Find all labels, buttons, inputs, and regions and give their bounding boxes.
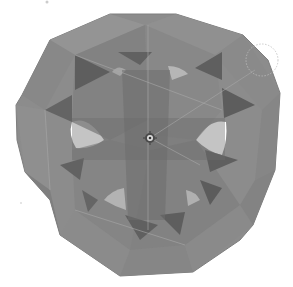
faint-mark [46,1,49,4]
polyhedron-render [0,0,293,287]
faint-mark [20,202,22,204]
